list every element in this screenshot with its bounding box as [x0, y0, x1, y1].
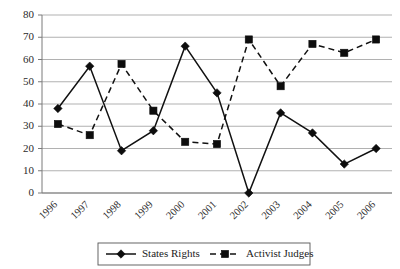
data-point-marker: [213, 89, 221, 97]
y-axis-tick-label: 20: [23, 142, 35, 154]
y-axis-tick-label: 10: [23, 164, 35, 176]
data-point-marker: [372, 36, 379, 43]
y-axis-tick-label: 80: [23, 8, 35, 20]
y-axis-tick-label: 60: [23, 53, 35, 65]
data-point-marker: [372, 144, 380, 152]
gridlines: [38, 15, 392, 193]
chart-figure: 01020304050607080 1996199719981999200020…: [0, 0, 400, 269]
data-point-marker: [245, 36, 252, 43]
x-axis-tick-label: 1997: [69, 199, 92, 222]
x-axis-tick-label: 2001: [196, 199, 219, 222]
data-point-marker: [213, 140, 220, 147]
y-axis-tick-labels: 01020304050607080: [23, 8, 35, 198]
data-point-marker: [118, 60, 125, 67]
x-axis-tick-label: 2004: [291, 198, 314, 221]
data-point-marker: [182, 138, 189, 145]
legend-label-0: States Rights: [142, 247, 200, 259]
x-axis-tick-label: 2002: [228, 199, 251, 222]
data-point-marker: [86, 132, 93, 139]
x-axis-tick-labels: 1996199719981999200020012002200320042005…: [37, 198, 378, 221]
data-point-marker: [149, 127, 157, 135]
x-axis-tick-label: 1998: [100, 199, 123, 222]
data-point-marker: [276, 109, 284, 117]
line-chart: 01020304050607080 1996199719981999200020…: [0, 0, 400, 269]
x-axis-tick-label: 2000: [164, 199, 187, 222]
data-point-marker: [181, 42, 189, 50]
legend-marker-square-icon: [221, 250, 228, 257]
data-point-marker: [341, 49, 348, 56]
y-axis-tick-label: 0: [29, 186, 35, 198]
data-series: [54, 36, 381, 197]
x-axis-tick-label: 2005: [323, 199, 346, 222]
x-axis-tick-label: 1996: [37, 199, 60, 222]
data-point-marker: [309, 40, 316, 47]
y-axis-tick-label: 30: [23, 119, 35, 131]
chart-legend: States RightsActivist Judges: [98, 243, 314, 265]
legend-label-1: Activist Judges: [246, 247, 314, 259]
data-point-marker: [117, 147, 125, 155]
x-axis-tick-label: 2003: [259, 199, 282, 222]
data-point-marker: [150, 107, 157, 114]
y-axis-tick-label: 40: [23, 97, 35, 109]
data-point-marker: [245, 189, 253, 197]
y-axis-tick-label: 70: [23, 30, 35, 42]
x-axis-tick-label: 1999: [132, 199, 155, 222]
data-point-marker: [277, 83, 284, 90]
x-axis-tick-label: 2006: [355, 199, 378, 222]
y-axis-tick-label: 50: [23, 75, 35, 87]
data-point-marker: [54, 120, 61, 127]
